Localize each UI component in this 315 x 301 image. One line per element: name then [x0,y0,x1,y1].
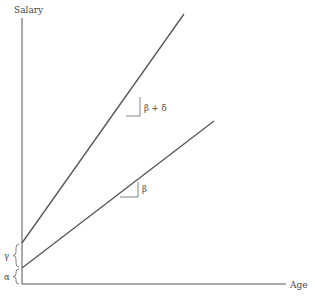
lower-line [22,121,214,268]
alpha-brace [13,269,19,284]
upper-line [22,14,184,243]
salary-age-diagram: Salary Age β + δ β γ α [0,0,315,301]
x-axis-label: Age [289,280,308,290]
gamma-label: γ [4,251,9,261]
upper-slope-triangle [126,97,140,116]
gamma-brace [13,244,19,267]
y-axis-label: Salary [14,5,44,15]
upper-slope-label: β + δ [144,103,167,113]
lower-slope-triangle [120,182,138,197]
alpha-label: α [4,272,10,282]
lower-slope-label: β [142,184,147,194]
